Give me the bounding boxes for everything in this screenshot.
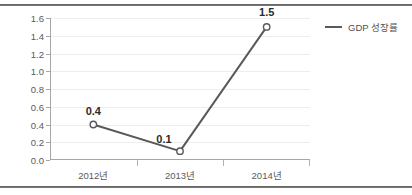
- y-tick-label: 1.4: [31, 30, 44, 41]
- chart-legend: GDP 성장률: [325, 20, 398, 34]
- data-point-marker: [263, 24, 269, 30]
- series-markers: [90, 24, 270, 155]
- data-point-marker: [90, 121, 96, 127]
- chart-figure: 0.00.20.40.60.81.01.21.41.6 2012년2013년20…: [0, 0, 412, 195]
- y-tick-label: 1.2: [31, 48, 44, 59]
- y-tick-mark: [46, 160, 50, 161]
- x-tick-label: 2013년: [165, 168, 195, 182]
- plot-area: 0.00.20.40.60.81.01.21.41.6 2012년2013년20…: [50, 18, 310, 160]
- data-point-label: 1.5: [259, 6, 274, 18]
- x-tick-divider: [309, 160, 310, 166]
- x-tick-label: 2012년: [78, 168, 108, 182]
- x-tick-divider: [223, 160, 224, 166]
- y-tick-label: 0.6: [31, 101, 44, 112]
- y-tick-label: 0.0: [31, 155, 44, 166]
- y-tick-label: 0.8: [31, 84, 44, 95]
- bottom-divider-rule: [0, 186, 412, 188]
- y-tick-label: 1.6: [31, 13, 44, 24]
- data-point-label: 0.4: [86, 105, 101, 117]
- x-tick-divider: [137, 160, 138, 166]
- data-point-marker: [177, 148, 183, 154]
- y-tick-label: 0.2: [31, 137, 44, 148]
- data-point-label: 0.1: [156, 133, 171, 145]
- top-divider-rule: [0, 4, 412, 6]
- series-line: [93, 27, 266, 151]
- x-tick-label: 2014년: [252, 168, 282, 182]
- series-gdp-growth-rate: [50, 18, 310, 160]
- legend-label: GDP 성장률: [348, 20, 398, 34]
- y-tick-label: 1.0: [31, 66, 44, 77]
- y-tick-label: 0.4: [31, 119, 44, 130]
- legend-line-swatch: [325, 26, 342, 28]
